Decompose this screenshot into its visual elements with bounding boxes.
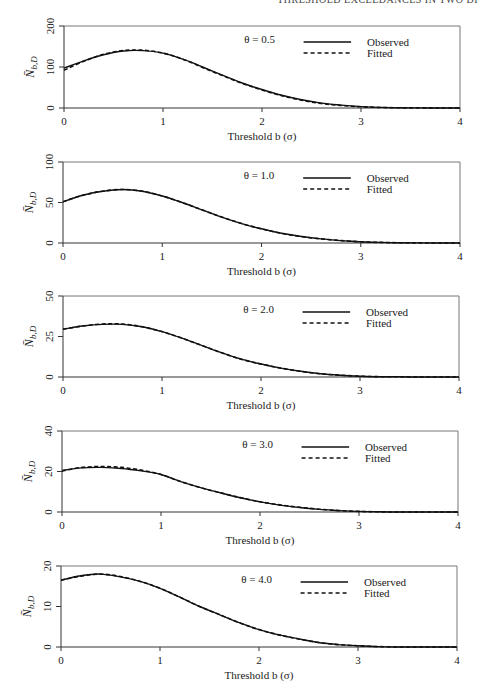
y-axis-label: N̄b,D xyxy=(22,325,38,348)
x-tick-label: 0 xyxy=(60,384,66,396)
y-tick-label: 20 xyxy=(42,466,54,478)
x-tick-label: 3 xyxy=(355,654,361,666)
y-tick-label: 50 xyxy=(43,197,55,209)
theta-annotation: θ = 0.5 xyxy=(244,33,275,45)
x-tick-label: 3 xyxy=(357,384,363,396)
x-tick-label: 4 xyxy=(456,384,462,396)
x-tick-label: 1 xyxy=(160,250,166,262)
x-tick-label: 1 xyxy=(158,519,164,531)
fitted-curve xyxy=(62,467,458,512)
x-tick-label: 1 xyxy=(159,384,165,396)
legend-fitted-label: Fitted xyxy=(367,183,393,195)
x-tick-label: 2 xyxy=(259,250,265,262)
x-tick-label: 4 xyxy=(457,115,463,127)
chart-panel-1: 012340100200N̄b,DThreshold b (σ)θ = 0.5O… xyxy=(23,17,463,143)
chart-panel-2: 01234050100N̄b,DThreshold b (σ)θ = 1.0Ob… xyxy=(22,153,463,278)
y-tick-label: 25 xyxy=(43,331,55,343)
x-tick-label: 4 xyxy=(454,654,460,666)
x-tick-label: 0 xyxy=(60,250,66,262)
observed-curve xyxy=(64,50,460,108)
x-tick-label: 1 xyxy=(160,115,166,127)
x-axis-label: Threshold b (σ) xyxy=(227,399,296,412)
y-tick-label: 100 xyxy=(43,153,55,170)
x-tick-label: 2 xyxy=(257,519,263,531)
y-tick-label: 50 xyxy=(43,290,55,302)
y-tick-label: 10 xyxy=(41,601,53,613)
fitted-curve xyxy=(63,190,460,244)
x-tick-label: 3 xyxy=(356,519,362,531)
x-tick-label: 0 xyxy=(59,519,65,531)
theta-annotation: θ = 4.0 xyxy=(241,573,272,585)
chart-panel-4: 0123402040N̄b,DThreshold b (σ)θ = 3.0Obs… xyxy=(21,425,461,547)
chart-panel-3: 0123402550N̄b,DThreshold b (σ)θ = 2.0Obs… xyxy=(22,290,462,412)
y-axis-label: N̄b,D xyxy=(21,460,37,483)
x-axis-label: Threshold b (σ) xyxy=(227,265,296,278)
fitted-curve xyxy=(63,324,459,377)
y-tick-label: 200 xyxy=(44,17,56,34)
x-tick-label: 0 xyxy=(61,115,67,127)
x-tick-label: 4 xyxy=(455,519,461,531)
chart-panel-5: 0123401020N̄b,DThreshold b (σ)θ = 4.0Obs… xyxy=(20,560,460,682)
y-tick-label: 0 xyxy=(41,644,53,650)
theta-annotation: θ = 3.0 xyxy=(242,438,273,450)
y-axis-label: N̄b,D xyxy=(20,595,36,618)
y-tick-label: 0 xyxy=(43,374,55,380)
theta-annotation: θ = 2.0 xyxy=(243,303,274,315)
y-tick-label: 0 xyxy=(43,240,55,246)
x-axis-label: Threshold b (σ) xyxy=(225,669,294,682)
y-tick-label: 0 xyxy=(42,509,54,515)
y-tick-label: 0 xyxy=(44,105,56,111)
legend-fitted-label: Fitted xyxy=(365,452,391,464)
x-tick-label: 4 xyxy=(457,250,463,262)
figure-panels: 012340100200N̄b,DThreshold b (σ)θ = 0.5O… xyxy=(0,0,478,698)
x-tick-label: 2 xyxy=(256,654,262,666)
y-tick-label: 20 xyxy=(41,560,53,572)
fitted-curve xyxy=(64,50,460,108)
x-tick-label: 3 xyxy=(358,115,364,127)
x-tick-label: 2 xyxy=(258,384,264,396)
legend-fitted-label: Fitted xyxy=(366,317,392,329)
y-tick-label: 100 xyxy=(44,58,56,75)
theta-annotation: θ = 1.0 xyxy=(244,169,275,181)
x-axis-label: Threshold b (σ) xyxy=(226,534,295,547)
x-axis-label: Threshold b (σ) xyxy=(228,130,297,143)
y-axis-label: N̄b,D xyxy=(23,56,39,79)
x-tick-label: 3 xyxy=(358,250,364,262)
x-tick-label: 2 xyxy=(259,115,265,127)
y-tick-label: 40 xyxy=(42,425,54,437)
x-tick-label: 1 xyxy=(157,654,163,666)
observed-curve xyxy=(63,324,459,377)
legend-fitted-label: Fitted xyxy=(364,587,390,599)
observed-curve xyxy=(62,467,458,512)
observed-curve xyxy=(63,190,460,244)
y-axis-label: N̄b,D xyxy=(22,191,38,214)
legend-fitted-label: Fitted xyxy=(367,47,393,59)
x-tick-label: 0 xyxy=(58,654,64,666)
